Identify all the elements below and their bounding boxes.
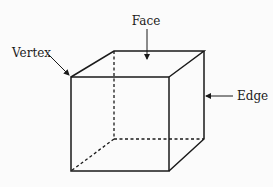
vertex-arrow — [49, 55, 69, 75]
cube-diagram: Face Vertex Edge — [0, 0, 273, 187]
visible-edges — [71, 51, 204, 171]
edge-label: Edge — [237, 89, 268, 103]
face-label: Face — [132, 14, 161, 28]
top-face — [71, 51, 204, 77]
annotations: Face Vertex Edge — [11, 14, 268, 103]
hidden-edges — [71, 51, 204, 171]
hidden-diagonal-edge — [71, 139, 114, 171]
right-face-edges — [169, 51, 204, 171]
vertex-label: Vertex — [11, 46, 51, 60]
front-face — [71, 77, 169, 171]
